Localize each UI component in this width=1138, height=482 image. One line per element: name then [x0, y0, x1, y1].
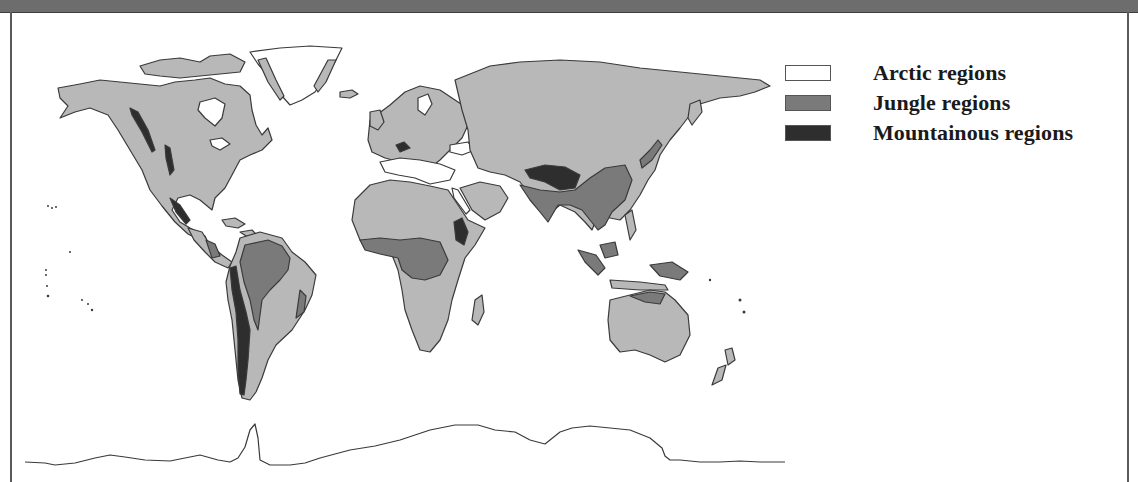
arctic-swatch — [785, 65, 831, 81]
antarctica — [25, 424, 785, 465]
madagascar — [472, 295, 484, 325]
legend-label-jungle: Jungle regions — [873, 90, 1010, 116]
legend-label-arctic: Arctic regions — [873, 60, 1006, 86]
legend-item-mountainous: Mountainous regions — [785, 118, 1073, 148]
legend-item-jungle: Jungle regions — [785, 88, 1073, 118]
legend-label-mountainous: Mountainous regions — [873, 120, 1073, 146]
legend-item-arctic: Arctic regions — [785, 58, 1073, 88]
arctic-islands — [140, 54, 245, 78]
map-legend: Arctic regions Jungle regions Mountainou… — [785, 58, 1073, 148]
jungle-swatch — [785, 95, 831, 111]
mountainous-swatch — [785, 125, 831, 141]
